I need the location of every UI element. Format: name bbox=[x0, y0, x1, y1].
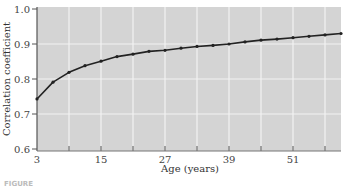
x-tick-label: 51 bbox=[287, 154, 300, 165]
data-point-marker bbox=[51, 81, 54, 84]
data-point-marker bbox=[179, 47, 182, 50]
x-tick-label: 39 bbox=[223, 154, 236, 165]
data-point-marker bbox=[323, 33, 326, 36]
figure-caption: FIGURE bbox=[4, 180, 33, 188]
x-axis-title: Age (years) bbox=[160, 163, 219, 174]
x-tick-label: 15 bbox=[95, 154, 108, 165]
data-point-marker bbox=[275, 38, 278, 41]
y-tick-label: 0.7 bbox=[14, 109, 30, 120]
data-point-marker bbox=[227, 42, 230, 45]
data-point-marker bbox=[243, 40, 246, 43]
y-tick-label: 0.6 bbox=[14, 144, 30, 155]
data-point-marker bbox=[163, 49, 166, 52]
data-point-marker bbox=[67, 71, 70, 74]
data-point-marker bbox=[339, 32, 342, 35]
data-point-marker bbox=[211, 44, 214, 47]
y-tick-label: 0.9 bbox=[14, 39, 30, 50]
data-point-marker bbox=[307, 35, 310, 38]
x-tick-label: 3 bbox=[34, 154, 40, 165]
data-point-marker bbox=[131, 53, 134, 56]
y-tick-label: 1.0 bbox=[14, 4, 30, 15]
data-point-marker bbox=[291, 36, 294, 39]
y-tick-label: 0.8 bbox=[14, 74, 30, 85]
line-chart: 0.60.70.80.91.0315273951 Age (years) Cor… bbox=[0, 0, 343, 188]
data-point-marker bbox=[115, 55, 118, 58]
data-point-marker bbox=[99, 60, 102, 63]
data-point-marker bbox=[35, 97, 38, 100]
data-point-marker bbox=[83, 64, 86, 67]
data-point-marker bbox=[147, 50, 150, 53]
data-point-marker bbox=[259, 39, 262, 42]
y-axis-title: Correlation coefficient bbox=[1, 22, 12, 136]
data-point-marker bbox=[195, 45, 198, 48]
